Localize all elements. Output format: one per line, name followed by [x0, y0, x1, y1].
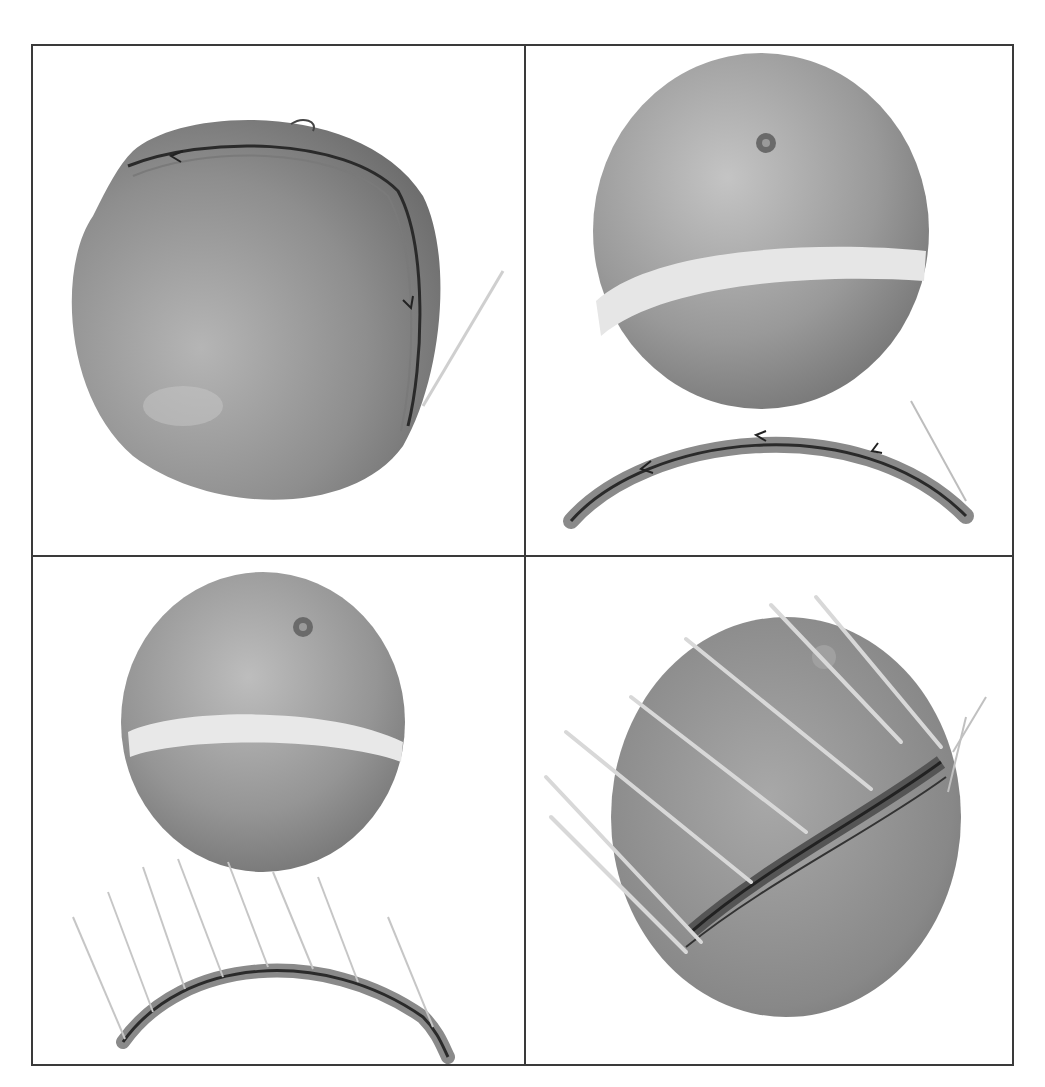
horizontal-divider — [33, 555, 1012, 557]
figure-frame: Grapefruit with a marked strip of peel d… — [31, 44, 1014, 1066]
grapefruit-marked-photo — [33, 46, 524, 555]
grapefruit-strip-removed-photo — [526, 46, 1012, 555]
strip-with-toothpicks-photo — [33, 557, 524, 1064]
strip-reattached-photo — [526, 557, 1012, 1064]
panel-top-right: Grapefruit with peel strip removed, the … — [526, 46, 1012, 555]
panel-bottom-left: Grapefruit with peel strip removed; stri… — [33, 557, 524, 1064]
panel-top-left: Grapefruit with a marked strip of peel d… — [33, 46, 524, 555]
panel-bottom-right: Peel strip reattached to grapefruit and … — [526, 557, 1012, 1064]
